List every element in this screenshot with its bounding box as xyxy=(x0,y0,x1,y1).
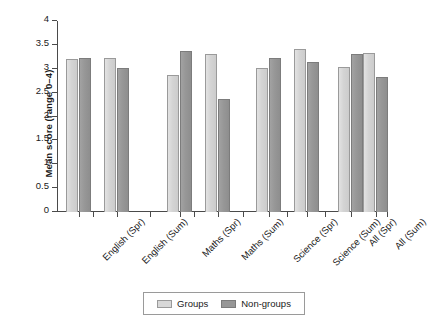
bar xyxy=(117,68,129,212)
y-axis-tick: 1.5 xyxy=(52,139,57,140)
x-axis-tick xyxy=(287,212,288,217)
chart-legend: Groups Non-groups xyxy=(143,292,305,315)
y-axis-tick-label: 3 xyxy=(44,61,49,72)
x-axis-tick xyxy=(307,212,308,217)
y-axis-tick: 1 xyxy=(52,163,57,164)
bar xyxy=(180,51,192,212)
x-axis-label: Maths (Spr) xyxy=(200,216,243,259)
bar xyxy=(363,53,375,212)
bar xyxy=(307,62,319,212)
y-axis-tick: 0 xyxy=(52,211,57,212)
bar xyxy=(205,54,217,212)
bar xyxy=(338,67,350,212)
x-axis-tick xyxy=(376,212,377,217)
legend-item-non-groups: Non-groups xyxy=(221,298,291,309)
x-axis-label: Maths (Sum) xyxy=(239,216,285,262)
y-axis-tick: 2 xyxy=(52,116,57,117)
bar xyxy=(104,58,116,212)
y-axis-tick-label: 0 xyxy=(44,204,49,215)
x-axis-label: English (Spr) xyxy=(100,216,147,263)
bar xyxy=(256,68,268,212)
x-axis-tick xyxy=(150,212,151,217)
y-axis-tick-label: 4 xyxy=(44,13,49,24)
bar xyxy=(376,77,388,212)
y-axis-tick-label: 1.5 xyxy=(36,132,49,143)
bar xyxy=(79,58,91,212)
bar xyxy=(294,49,306,212)
x-axis-tick xyxy=(387,212,388,217)
y-axis-tick: 2.5 xyxy=(52,92,57,93)
y-axis-tick-label: 0.5 xyxy=(36,180,49,191)
y-axis-tick-label: 3.5 xyxy=(36,37,49,48)
x-axis-tick xyxy=(325,212,326,217)
bar-chart: Mean score (range 0–4) 00.511.522.533.54… xyxy=(0,0,430,326)
x-axis-tick xyxy=(194,212,195,217)
legend-label-groups: Groups xyxy=(177,298,208,309)
y-axis-tick-label: 2 xyxy=(44,109,49,120)
y-axis-tick: 3 xyxy=(52,68,57,69)
legend-swatch-non-groups-icon xyxy=(221,300,236,308)
legend-item-groups: Groups xyxy=(157,298,208,309)
bar xyxy=(351,54,363,212)
legend-label-non-groups: Non-groups xyxy=(241,298,291,309)
bar xyxy=(218,99,230,212)
y-axis-tick: 3.5 xyxy=(52,44,57,45)
plot-area: 00.511.522.533.54 xyxy=(57,21,387,212)
bar xyxy=(167,75,179,212)
x-axis-tick xyxy=(269,212,270,217)
bar xyxy=(269,58,281,212)
y-axis-tick-label: 1 xyxy=(44,156,49,167)
x-axis-label: All (Sum) xyxy=(392,216,427,251)
x-axis-tick xyxy=(218,212,219,217)
x-axis-tick xyxy=(117,212,118,217)
bar xyxy=(66,59,78,212)
y-axis-title: Mean score (range 0–4) xyxy=(43,24,54,224)
y-axis-tick-label: 2.5 xyxy=(36,85,49,96)
x-axis-tick xyxy=(243,212,244,217)
x-axis-tick xyxy=(93,212,94,217)
y-axis-line xyxy=(57,21,58,212)
x-axis-tick xyxy=(79,212,80,217)
y-axis-tick: 0.5 xyxy=(52,187,57,188)
y-axis-tick: 4 xyxy=(52,20,57,21)
legend-swatch-groups-icon xyxy=(157,300,172,308)
x-axis-tick xyxy=(351,212,352,217)
